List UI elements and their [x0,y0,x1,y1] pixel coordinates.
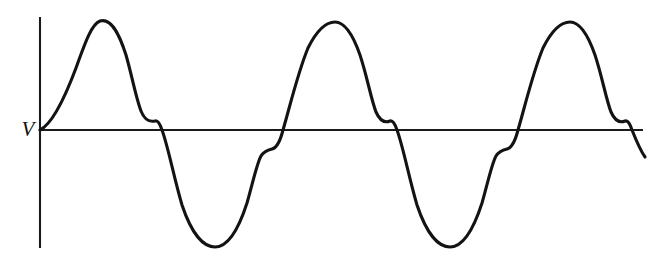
voltage-waveform-curve [40,21,645,247]
waveform-figure: V [0,0,661,261]
waveform-chart [0,0,661,261]
voltage-axis-label: V [18,119,38,140]
